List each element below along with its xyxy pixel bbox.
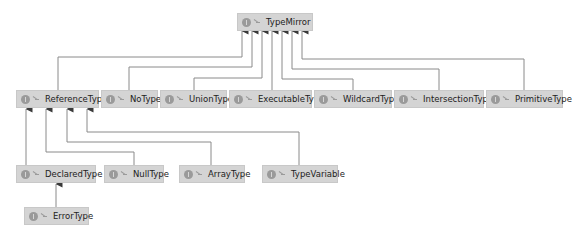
public-visibility-icon [121,171,128,177]
type-hierarchy-diagram: TypeMirror ReferenceType NoType UnionTyp… [0,0,580,236]
node-uniontype[interactable]: UnionType [160,90,227,108]
node-label: TypeMirror [266,17,311,27]
node-referencetype[interactable]: ReferenceType [16,90,99,108]
node-primitivetype[interactable]: PrimitiveType [486,90,563,108]
public-visibility-icon [177,96,184,102]
node-label: PrimitiveType [515,94,572,104]
public-visibility-icon [279,171,286,177]
interface-icon [319,95,328,104]
edge-typevariable-referencetype [87,109,299,165]
interface-icon [106,95,115,104]
node-label: ReferenceType [45,94,107,104]
interface-icon [399,95,408,104]
public-visibility-icon [41,213,48,219]
public-visibility-icon [33,96,40,102]
node-label: ErrorType [53,211,93,221]
node-declaredtype[interactable]: DeclaredType [16,165,96,183]
public-visibility-icon [503,96,510,102]
node-label: NullType [133,169,169,179]
node-typevariable[interactable]: TypeVariable [262,165,338,183]
public-visibility-icon [254,19,261,25]
node-label: DeclaredType [45,169,102,179]
edge-referencetype-typemirror [58,31,242,90]
public-visibility-icon [411,96,418,102]
node-errortype[interactable]: ErrorType [24,207,89,225]
interface-icon [234,95,243,104]
interface-icon [184,170,193,179]
interface-icon [491,95,500,104]
edge-wildcardtype-typemirror [282,31,353,90]
edge-notype-typemirror [129,31,252,90]
public-visibility-icon [118,96,125,102]
interface-icon [29,212,38,221]
public-visibility-icon [33,171,40,177]
public-visibility-icon [246,96,253,102]
interface-icon [165,95,174,104]
edge-primitivetype-typemirror [302,31,524,90]
public-visibility-icon [331,96,338,102]
public-visibility-icon [196,171,203,177]
interface-icon [109,170,118,179]
node-wildcardtype[interactable]: WildcardType [314,90,392,108]
interface-icon [21,170,30,179]
node-intersectiontype[interactable]: IntersectionType [394,90,484,108]
node-label: IntersectionType [423,94,493,104]
node-label: WildcardType [343,94,399,104]
edge-intersectiontype-typemirror [292,31,439,90]
edge-arraytype-referencetype [67,109,211,165]
node-notype[interactable]: NoType [101,90,158,108]
node-label: UnionType [189,94,233,104]
edge-nulltype-referencetype [46,109,134,165]
node-label: NoType [130,94,161,104]
node-label: TypeVariable [291,169,345,179]
interface-icon [267,170,276,179]
node-typemirror[interactable]: TypeMirror [237,13,313,31]
node-nulltype[interactable]: NullType [104,165,164,183]
interface-icon [242,18,251,27]
interface-icon [21,95,30,104]
inheritance-edges [0,0,580,236]
node-executabletype[interactable]: ExecutableType [229,90,312,108]
node-label: ArrayType [208,169,250,179]
node-arraytype[interactable]: ArrayType [179,165,245,183]
